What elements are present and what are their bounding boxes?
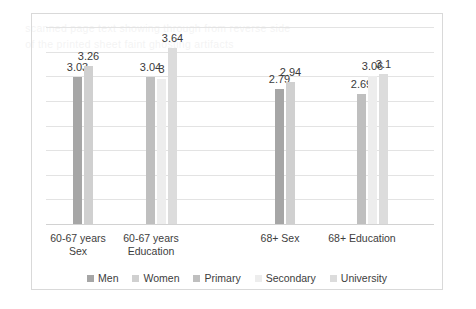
chart-legend-label: Men <box>98 272 118 284</box>
chart-bar-value-label: 3.1 <box>376 58 391 70</box>
chart-legend-swatch-icon <box>132 275 139 282</box>
chart-bar: 3 <box>157 79 166 224</box>
chart-legend-label: Primary <box>204 272 240 284</box>
chart-bar: 3.06 <box>368 76 377 224</box>
chart-legend-label: Women <box>143 272 179 284</box>
chart-legend-item[interactable]: Primary <box>193 272 240 284</box>
chart-legend-label: Secondary <box>266 272 316 284</box>
chart-legend-item[interactable]: Secondary <box>255 272 316 284</box>
chart-bar: 2.79 <box>275 89 284 224</box>
chart-bar: 3.03 <box>73 77 82 224</box>
chart-category-label-line: 68+ Sex <box>237 232 323 245</box>
chart-bar-group: 3.033.26 <box>73 14 93 224</box>
chart-legend-swatch-icon <box>87 275 94 282</box>
chart-category-label: 68+ Sex <box>237 232 323 245</box>
chart-bar-group: 2.792.94 <box>275 14 295 224</box>
chart-legend-swatch-icon <box>255 275 262 282</box>
chart-bar-value-label: 2.94 <box>280 66 301 78</box>
chart-plot-area: 3.033.263.0433.642.792.942.693.063.1 60-… <box>31 13 443 290</box>
chart-bar-group: 2.693.063.1 <box>357 14 388 224</box>
chart-bar: 3.1 <box>379 74 388 224</box>
chart-legend-swatch-icon <box>330 275 337 282</box>
chart-bar: 3.04 <box>146 77 155 224</box>
chart-bar-value-label: 3.64 <box>162 32 183 44</box>
chart-legend-item[interactable]: Women <box>132 272 179 284</box>
chart-bar-value-label: 3 <box>158 63 164 75</box>
chart-bar: 2.94 <box>286 82 295 224</box>
chart-category-axis: 60-67 yearsSex60-67 yearsEducation68+ Se… <box>32 226 442 270</box>
chart-bar-value-label: 3.26 <box>78 50 99 62</box>
chart-bar: 3.64 <box>168 48 177 224</box>
chart-legend-item[interactable]: University <box>330 272 387 284</box>
chart-category-label-line: 60-67 years <box>108 232 194 245</box>
chart-legend-item[interactable]: Men <box>87 272 118 284</box>
chart-category-label-line: 68+ Education <box>319 232 405 245</box>
chart-bar-groups: 3.033.263.0433.642.792.942.693.063.1 <box>32 14 442 224</box>
chart-bar: 3.26 <box>84 66 93 224</box>
chart-bar-group: 3.0433.64 <box>146 14 177 224</box>
chart-category-label-line: Education <box>108 245 194 258</box>
chart-baseline <box>46 224 434 225</box>
chart-legend-swatch-icon <box>193 275 200 282</box>
chart-bar: 2.69 <box>357 94 366 224</box>
chart-legend: MenWomenPrimarySecondaryUniversity <box>32 272 442 284</box>
chart-legend-label: University <box>341 272 387 284</box>
chart-category-label: 68+ Education <box>319 232 405 245</box>
chart-category-label: 60-67 yearsEducation <box>108 232 194 258</box>
